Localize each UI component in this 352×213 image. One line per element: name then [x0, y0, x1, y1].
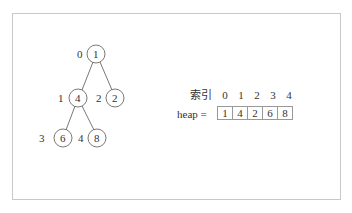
array-index-row: 0 1 2 3 4 [217, 89, 297, 101]
tree-edge [82, 62, 93, 90]
tree-node-index: 0 [77, 48, 83, 60]
tree-edge [100, 62, 112, 90]
tree-node-index: 4 [78, 132, 84, 144]
tree-node-value: 4 [75, 92, 81, 104]
array-index: 1 [233, 89, 249, 101]
tree-edge [66, 106, 75, 130]
array-name-label: heap = [177, 108, 207, 120]
heap-array: 1 4 2 6 8 [217, 106, 293, 120]
heap-tree [0, 0, 352, 213]
tree-node-index: 1 [58, 92, 64, 104]
array-index: 4 [281, 89, 297, 101]
array-index: 2 [249, 89, 265, 101]
array-cell: 6 [262, 106, 278, 120]
array-cell: 1 [217, 106, 233, 120]
tree-node-value: 1 [93, 48, 99, 60]
tree-edge [82, 106, 94, 130]
tree-node-value: 6 [60, 132, 66, 144]
array-cell: 8 [277, 106, 293, 120]
array-index-label: 索引 [190, 89, 212, 101]
array-index: 3 [265, 89, 281, 101]
tree-node-index: 2 [96, 92, 102, 104]
tree-node-value: 8 [94, 132, 100, 144]
array-cell: 4 [232, 106, 248, 120]
tree-node-index: 3 [39, 132, 45, 144]
tree-node-value: 2 [112, 92, 118, 104]
array-index: 0 [217, 89, 233, 101]
array-cell: 2 [247, 106, 263, 120]
